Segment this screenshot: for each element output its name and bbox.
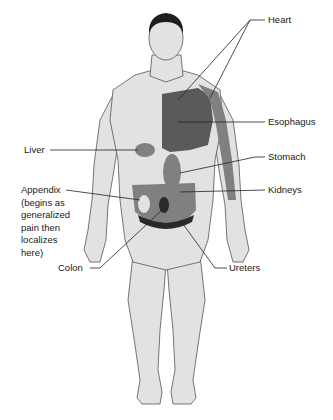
- label-kidneys: Kidneys: [268, 184, 302, 197]
- label-esophagus: Esophagus: [268, 116, 316, 129]
- label-heart: Heart: [268, 14, 291, 27]
- label-colon: Colon: [58, 262, 83, 275]
- ureters-region: [159, 197, 169, 213]
- heart-region: [162, 88, 213, 152]
- appendix-region: [138, 195, 150, 213]
- label-ureters: Ureters: [229, 262, 260, 275]
- label-appendix: Appendix (begins as generalized pain the…: [21, 184, 70, 259]
- label-liver: Liver: [24, 144, 45, 157]
- label-stomach: Stomach: [268, 151, 306, 164]
